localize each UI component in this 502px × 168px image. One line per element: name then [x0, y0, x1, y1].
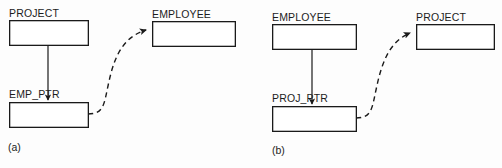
- proj-ptr-box-b-label: PROJ_PTR: [272, 92, 328, 104]
- employee-box-a-label: EMPLOYEE: [152, 8, 211, 20]
- project-box-a: [10, 21, 89, 46]
- employee-box-b-label: EMPLOYEE: [272, 11, 331, 23]
- emp-ptr-box-a-label: EMP_PTR: [9, 88, 60, 100]
- proj-ptr-box-b: [273, 107, 357, 132]
- pointer-reference-curve-a: [88, 30, 146, 114]
- employee-box-b: [273, 25, 357, 50]
- project-box-a-label: PROJECT: [9, 7, 59, 19]
- project-box-b: [417, 25, 495, 50]
- project-box-b-label: PROJECT: [416, 11, 466, 23]
- pointer-reference-curve-b: [356, 33, 410, 118]
- panel-caption-a: (a): [8, 141, 21, 153]
- panel-caption-b: (b): [272, 144, 285, 156]
- emp-ptr-box-a: [10, 103, 89, 128]
- diagram-canvas: [0, 0, 502, 168]
- employee-box-a: [153, 22, 236, 47]
